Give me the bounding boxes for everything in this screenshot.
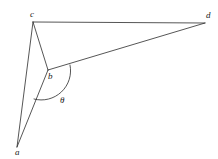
figure-canvas	[0, 0, 218, 159]
geometry-figure: c d b a θ	[0, 0, 218, 159]
angle-label-theta: θ	[60, 96, 64, 105]
edge-group	[17, 22, 205, 147]
vertex-label-b: b	[48, 72, 53, 81]
vertex-label-c: c	[30, 10, 34, 19]
vertex-label-a: a	[15, 148, 20, 157]
edge-c-b	[33, 22, 48, 70]
vertex-label-d: d	[206, 11, 211, 20]
edge-b-d	[48, 23, 205, 70]
edge-c-a	[17, 22, 33, 147]
edge-c-d	[33, 22, 205, 23]
